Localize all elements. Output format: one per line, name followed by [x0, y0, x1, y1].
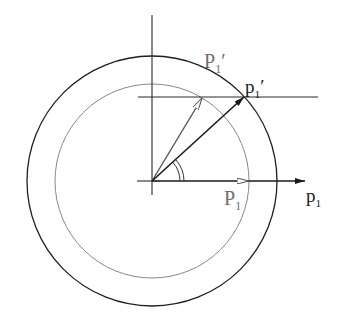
p1-prime-vector: [152, 97, 244, 181]
diagram-canvas: [0, 0, 342, 326]
angle-arc-inner: [173, 163, 180, 182]
label-p1-prime: p1′: [245, 77, 264, 100]
label-P1-prime: P1′: [204, 51, 226, 75]
label-p1: p1: [306, 186, 321, 209]
label-P1: P1: [224, 188, 241, 212]
